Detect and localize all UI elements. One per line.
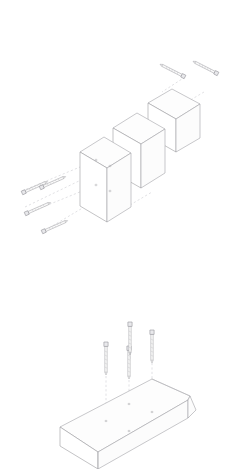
screw-tip	[128, 376, 130, 379]
screw-head	[128, 322, 132, 326]
screw-left-4	[41, 219, 68, 234]
screw-tip	[105, 372, 107, 375]
front-panel-block	[80, 137, 131, 222]
diagram-canvas	[0, 0, 232, 469]
guide-line	[130, 192, 152, 205]
beam-chamfer-face	[188, 396, 196, 418]
long-beam-tray	[60, 379, 196, 469]
screw-upper-right-2	[192, 60, 219, 76]
upper-exploded-assembly	[21, 60, 219, 234]
screw-vertical-4	[150, 330, 154, 363]
assembly-diagram-page	[0, 0, 232, 469]
screw-upper-right-1	[159, 63, 186, 79]
screw-tip	[151, 360, 153, 363]
screw-left-3	[24, 201, 51, 216]
screw-head	[104, 342, 108, 346]
screw-vertical-1	[104, 342, 108, 375]
lower-exploded-assembly	[60, 322, 196, 469]
screw-head	[150, 330, 154, 334]
